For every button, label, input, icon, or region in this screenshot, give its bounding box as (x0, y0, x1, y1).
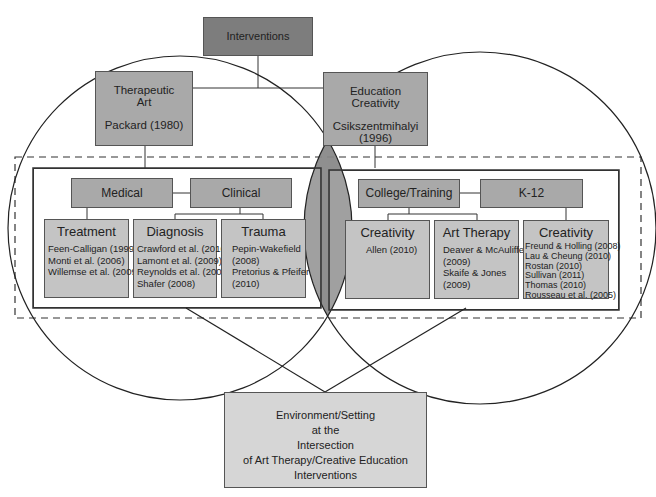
outcome-line: of Art Therapy/Creative Education (225, 453, 426, 468)
reference: (2010) (232, 278, 305, 290)
reference: (2009) (443, 279, 518, 291)
outcome-line: at the (225, 423, 426, 438)
reference: (2009) (443, 256, 518, 268)
category-medical-label: Medical (101, 186, 142, 200)
reference: Feen-Calligan (1999) (48, 243, 128, 255)
reference: Pretorius & Pfeifer (232, 266, 305, 278)
treatment-title: Treatment (45, 224, 128, 239)
category-college-training: College/Training (358, 179, 460, 208)
reference: Pepin-Wakefield (232, 243, 305, 255)
reference: Shafer (2008) (137, 278, 216, 290)
treatment-box: Treatment Feen-Calligan (1999) Monti et … (44, 219, 129, 298)
reference: Crawford et al. (2010) (137, 243, 216, 255)
category-clinical: Clinical (190, 178, 292, 208)
diagnosis-box: Diagnosis Crawford et al. (2010) Lamont … (133, 219, 217, 298)
reference: (2008) (232, 255, 305, 267)
interventions-label: Interventions (227, 30, 290, 42)
category-medical: Medical (71, 178, 173, 208)
outcome-line: Environment/Setting (225, 408, 426, 423)
therapeutic-art-title-1: Therapeutic (96, 84, 192, 96)
diagnosis-title: Diagnosis (134, 224, 216, 239)
reference: Willemse et al. (2009) (48, 266, 128, 278)
k12-creativity-title: Creativity (524, 225, 608, 240)
college-creativity-box: Creativity Allen (2010) (345, 220, 430, 299)
reference: Monti et al. (2006) (48, 255, 128, 267)
therapeutic-art-title-2: Art (96, 96, 192, 108)
outcome-box: Environment/Setting at the Intersection … (224, 392, 427, 488)
interventions-box: Interventions (203, 17, 313, 56)
education-creativity-citation: Csikszentmihalyi (1996) (324, 120, 427, 144)
education-creativity-box: Education Creativity Csikszentmihalyi (1… (323, 72, 428, 146)
k12-creativity-box: Creativity Freund & Holling (2008) Lau &… (523, 220, 609, 299)
trauma-title: Trauma (222, 224, 305, 239)
category-college-training-label: College/Training (366, 186, 453, 200)
reference: Rousseau et al. (2005) (525, 291, 608, 301)
category-k12: K-12 (480, 179, 583, 208)
category-k12-label: K-12 (519, 186, 544, 200)
category-clinical-label: Clinical (222, 186, 261, 200)
reference: Lamont et al. (2009) (137, 255, 216, 267)
college-creativity-title: Creativity (346, 225, 429, 240)
reference: Skaife & Jones (443, 267, 518, 279)
therapeutic-art-citation: Packard (1980) (96, 119, 192, 131)
art-therapy-box: Art Therapy Deaver & McAuliffe (2009) Sk… (434, 220, 519, 299)
education-creativity-title-2: Creativity (324, 97, 427, 109)
reference: Allen (2010) (366, 244, 429, 256)
outcome-line: Intersection (225, 438, 426, 453)
reference: Reynolds et al. (2008) (137, 266, 216, 278)
education-creativity-title-1: Education (324, 85, 427, 97)
trauma-box: Trauma Pepin-Wakefield (2008) Pretorius … (221, 219, 306, 298)
therapeutic-art-box: Therapeutic Art Packard (1980) (95, 71, 193, 146)
reference: Deaver & McAuliffe (443, 244, 518, 256)
outcome-line: Interventions (225, 468, 426, 483)
art-therapy-title: Art Therapy (435, 225, 518, 240)
